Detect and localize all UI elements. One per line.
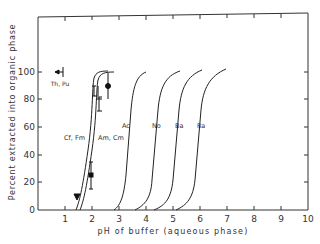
label-ac: Ac [122,122,130,130]
x-tick-label: 10 [302,214,314,224]
x-tick-label: 9 [278,214,284,224]
y-tick-label: 20 [24,177,36,187]
th-pu-label: Th, Pu [50,80,70,87]
x-tick-label: 4 [143,214,149,224]
label-ba: Ba [175,122,183,130]
label-am-cm: Am, Cm [98,134,124,142]
label-ra: Ra [197,122,205,130]
x-tick-label: 8 [251,214,257,224]
x-tick-labels: 1 2 3 4 5 6 7 8 9 10 [62,214,314,224]
y-axis-ticks [38,72,308,182]
y-tick-label: 60 [24,122,36,132]
y-tick-label: 100 [18,67,35,77]
x-axis-label: pH of buffer (aqueous phase) [97,227,248,236]
y-tick-label: 0 [29,205,35,215]
extraction-chart: 1 2 3 4 5 6 7 8 9 10 0 20 40 60 80 100 p… [0,0,320,244]
th-pu-marker [55,67,63,77]
y-tick-label: 40 [24,150,36,160]
label-no: No [152,122,161,130]
curve-ra [176,69,226,210]
y-axis-label: Percent extracted into organic phase [8,24,17,201]
y-tick-label: 80 [24,94,36,104]
data-point-square [89,173,93,177]
label-cf-fm: Cf, Fm [64,134,85,142]
y-tick-labels: 0 20 40 60 80 100 [18,67,35,215]
data-point-circle [106,84,111,89]
x-tick-label: 2 [89,214,95,224]
curve-no [135,71,180,210]
x-tick-label: 6 [197,214,203,224]
x-tick-label: 7 [224,214,230,224]
x-tick-label: 1 [62,214,68,224]
x-tick-label: 5 [170,214,176,224]
curve-labels: Cf, Fm Am, Cm Ac No Ba Ra [64,122,205,142]
x-tick-label: 3 [116,214,122,224]
